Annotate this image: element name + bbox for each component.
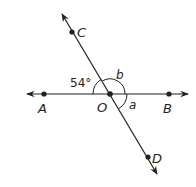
label-a: A	[37, 101, 47, 116]
label-d: D	[152, 151, 162, 166]
angle-label-54: 54°	[70, 76, 91, 90]
angle-label-b: b	[116, 68, 124, 82]
angle-diagram: A B C D O 54° b a	[0, 0, 196, 187]
label-b: B	[163, 101, 172, 116]
label-o: O	[97, 100, 107, 115]
point-a	[41, 91, 46, 96]
angle-label-a: a	[129, 98, 136, 112]
angle-arc-aoc	[93, 79, 101, 94]
point-d	[145, 154, 150, 159]
angle-arc-bod	[119, 94, 127, 109]
point-b	[166, 91, 171, 96]
point-o	[107, 91, 113, 97]
point-c	[69, 29, 74, 34]
label-c: C	[77, 25, 87, 40]
